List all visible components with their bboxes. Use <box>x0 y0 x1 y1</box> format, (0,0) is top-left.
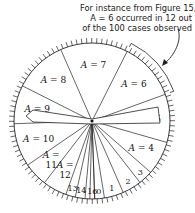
tick-mark <box>48 187 51 191</box>
tick-mark <box>17 86 22 88</box>
tick-mark <box>146 178 149 182</box>
tick-mark <box>116 42 118 47</box>
tick-mark <box>130 189 132 193</box>
tick-mark <box>19 81 23 83</box>
tick-mark <box>155 167 159 170</box>
tick-mark <box>142 57 145 61</box>
tick-mark <box>52 189 54 193</box>
tick-mark <box>166 145 171 147</box>
sector-label-16: 16 <box>87 187 97 196</box>
tick-mark <box>169 110 174 111</box>
tick-mark <box>28 171 32 174</box>
tick-mark <box>158 163 162 166</box>
sector-boundary <box>66 121 92 194</box>
tick-mark <box>15 150 20 152</box>
tick-mark <box>77 198 78 203</box>
sector-label-12: A =12 <box>56 160 74 180</box>
tick-mark <box>107 198 108 203</box>
sector-label-6: A = 6 <box>120 79 147 89</box>
tick-mark <box>121 193 123 198</box>
tick-mark <box>22 77 26 80</box>
tick-mark <box>76 40 77 45</box>
tick-mark <box>134 51 137 55</box>
tick-mark <box>32 175 36 178</box>
tick-mark <box>10 111 15 112</box>
tick-mark <box>162 85 167 87</box>
sector-label-2: 2 <box>125 177 130 186</box>
tick-mark <box>39 57 42 61</box>
tick-mark <box>82 198 83 203</box>
tick-mark <box>10 131 15 132</box>
sector-label-10: A = 10 <box>22 134 54 144</box>
tick-mark <box>165 149 170 151</box>
tick-mark <box>22 163 26 166</box>
tick-mark <box>25 167 29 170</box>
tick-mark <box>125 191 127 196</box>
tick-mark <box>31 64 35 67</box>
tick-mark <box>62 194 64 199</box>
tick-mark <box>138 184 141 188</box>
tick-mark <box>169 135 174 136</box>
sector-label-8: A = 8 <box>40 75 67 85</box>
arrow-head-icon <box>162 59 168 66</box>
tick-mark <box>158 76 162 79</box>
tick-mark <box>149 64 153 67</box>
tick-mark <box>28 68 32 71</box>
tick-mark <box>129 48 131 52</box>
tick-mark <box>15 91 20 93</box>
tick-mark <box>66 42 68 47</box>
tick-mark <box>11 136 16 137</box>
tick-mark <box>10 106 15 107</box>
tick-mark <box>149 174 153 177</box>
tick-mark <box>61 44 63 49</box>
roulette-wheel-diagram: 0123A = 4A = 5A = 6A = 7A = 8A = 9A = 10… <box>0 0 195 213</box>
tick-mark <box>13 145 18 147</box>
tick-mark <box>160 81 164 83</box>
arrow-line <box>164 29 179 64</box>
tick-mark <box>17 154 22 156</box>
tick-mark <box>47 51 50 55</box>
tick-mark <box>43 184 46 188</box>
tick-mark <box>57 192 59 197</box>
tick-mark <box>111 41 112 46</box>
tick-mark <box>12 141 17 142</box>
tick-mark <box>71 41 72 46</box>
tick-mark <box>81 39 82 44</box>
tick-mark <box>163 154 168 156</box>
tick-mark <box>160 158 164 160</box>
tick-mark <box>106 39 107 44</box>
tick-mark <box>155 72 159 75</box>
tick-mark <box>39 181 42 185</box>
tick-mark <box>125 46 127 51</box>
tick-mark <box>169 105 174 106</box>
tick-mark <box>138 54 141 58</box>
tick-mark <box>145 60 148 64</box>
tick-mark <box>35 178 38 182</box>
tick-mark <box>134 187 137 191</box>
tick-mark <box>35 61 38 65</box>
tick-mark <box>12 101 17 102</box>
sector-label-7: A = 7 <box>80 60 107 70</box>
sector-label-14: 14 <box>76 186 86 195</box>
tick-mark <box>166 95 171 97</box>
tick-mark <box>120 44 122 49</box>
sector-label-1: 1 <box>109 184 114 193</box>
tick-mark <box>168 140 173 141</box>
tick-mark <box>152 171 156 174</box>
sector-boundary <box>92 121 123 192</box>
tick-mark <box>152 68 156 71</box>
tick-mark <box>164 90 169 92</box>
tick-mark <box>67 195 69 200</box>
tick-mark <box>52 48 54 52</box>
tick-mark <box>142 181 145 185</box>
tick-mark <box>43 54 46 58</box>
tick-mark <box>167 100 172 101</box>
tick-mark <box>112 196 113 201</box>
spinner-pivot <box>90 119 93 122</box>
sector-label-3: 3 <box>138 168 143 177</box>
tick-mark <box>116 195 118 200</box>
tick-mark <box>102 39 103 44</box>
tick-mark <box>19 159 23 161</box>
tick-mark <box>56 46 58 51</box>
sector-label-4: A = 4 <box>128 143 155 153</box>
